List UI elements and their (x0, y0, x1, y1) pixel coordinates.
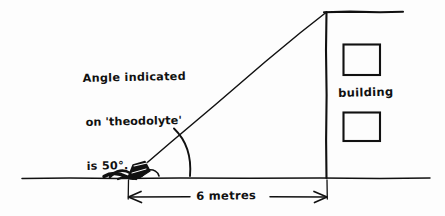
ground-line (22, 178, 430, 179)
angle-annotation-text: Angle indicated on 'theodolyte' is 50°. (82, 40, 189, 205)
building-label: building (338, 85, 394, 102)
annotation-line-2: on 'theodolyte' (84, 114, 188, 131)
annotation-line-3: is 50°. (84, 158, 188, 175)
dimension-label: 6 metres (196, 188, 256, 204)
building-roof-line (324, 12, 403, 13)
building-window-lower (344, 113, 381, 142)
sketch-drawing (0, 0, 445, 216)
building-wall (326, 12, 327, 178)
building-window-upper (344, 45, 381, 76)
diagram-canvas: Angle indicated on 'theodolyte' is 50°. … (0, 0, 445, 216)
annotation-line-1: Angle indicated (83, 69, 187, 86)
